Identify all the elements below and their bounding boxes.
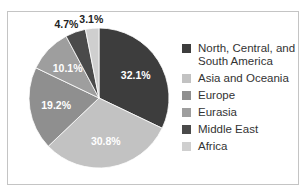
slice-label-3: 10.1% [53,62,83,74]
legend-swatch [182,44,191,53]
legend-label: Middle East [198,123,258,136]
legend-swatch [182,91,191,100]
legend-item: Eurasia [182,106,302,119]
slice-label-4: 4.7% [55,18,80,30]
slice-label-1: 30.8% [91,135,121,147]
legend-swatch [182,142,191,151]
legend-item: Africa [182,140,302,153]
legend-item: Middle East [182,123,302,136]
legend-swatch [182,125,191,134]
slice-label-5: 3.1% [79,13,104,25]
legend-label: Europe [198,89,235,102]
legend-swatch [182,74,191,83]
legend-label: Africa [198,140,227,153]
legend-label: Asia and Oceania [198,72,289,85]
slice-label-2: 19.2% [41,99,71,111]
legend-label: Eurasia [198,106,237,119]
legend-swatch [182,108,191,117]
legend-item: North, Central, and South America [182,42,302,68]
legend-label: North, Central, and South America [198,42,302,68]
legend-item: Europe [182,89,302,102]
chart-legend: North, Central, and South AmericaAsia an… [182,42,302,157]
slice-label-0: 32.1% [121,69,151,81]
legend-item: Asia and Oceania [182,72,302,85]
